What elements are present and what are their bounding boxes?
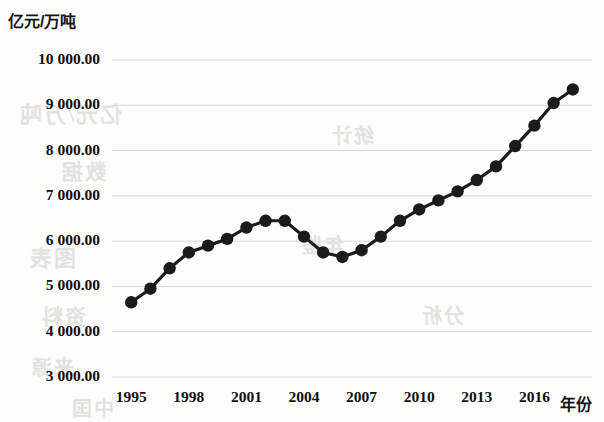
y-axis-tick-label: 9 000.00 xyxy=(0,95,100,113)
y-axis-tick-label: 4 000.00 xyxy=(0,322,100,340)
x-axis-tick-label: 1995 xyxy=(116,388,147,406)
x-axis-tick-label: 2013 xyxy=(461,388,492,406)
y-axis-tick-labels: 10 000.009 000.008 000.007 000.006 000.0… xyxy=(0,0,100,417)
data-point-marker xyxy=(144,282,156,294)
y-axis-tick-label: 8 000.00 xyxy=(0,141,100,159)
data-point-marker xyxy=(221,233,233,245)
data-point-marker xyxy=(413,203,425,215)
data-point-marker xyxy=(567,83,579,95)
y-axis-tick-label: 10 000.00 xyxy=(0,50,100,68)
data-point-marker xyxy=(163,262,175,274)
x-axis-title: 年份 xyxy=(560,391,592,415)
y-axis-tick-label: 3 000.00 xyxy=(0,367,100,385)
x-axis-tick-label: 1998 xyxy=(173,388,204,406)
data-point-marker xyxy=(336,251,348,263)
gridlines xyxy=(112,60,592,377)
data-point-marker xyxy=(183,246,195,258)
data-point-marker xyxy=(298,230,310,242)
data-point-marker xyxy=(240,221,252,233)
data-point-marker xyxy=(509,140,521,152)
data-point-marker xyxy=(279,215,291,227)
y-axis-tick-label: 6 000.00 xyxy=(0,231,100,249)
x-axis-tick-label: 2010 xyxy=(404,388,435,406)
data-point-marker xyxy=(432,194,444,206)
data-point-marker xyxy=(547,97,559,109)
data-point-marker xyxy=(375,230,387,242)
y-axis-tick-label: 7 000.00 xyxy=(0,186,100,204)
x-axis-tick-label: 2001 xyxy=(231,388,262,406)
x-axis-tick-labels: 19951998200120042007201020132016 xyxy=(0,388,604,414)
data-point-marker xyxy=(317,246,329,258)
data-point-marker xyxy=(394,215,406,227)
data-point-marker xyxy=(125,296,137,308)
data-point-marker xyxy=(451,185,463,197)
data-point-marker xyxy=(259,215,271,227)
data-point-marker xyxy=(355,244,367,256)
x-axis-tick-label: 2004 xyxy=(289,388,320,406)
data-point-marker xyxy=(202,239,214,251)
x-axis-tick-label: 2007 xyxy=(346,388,377,406)
data-point-marker xyxy=(528,119,540,131)
y-axis-tick-label: 5 000.00 xyxy=(0,276,100,294)
data-point-marker xyxy=(490,160,502,172)
x-axis-tick-label: 2016 xyxy=(519,388,550,406)
data-point-marker xyxy=(471,174,483,186)
